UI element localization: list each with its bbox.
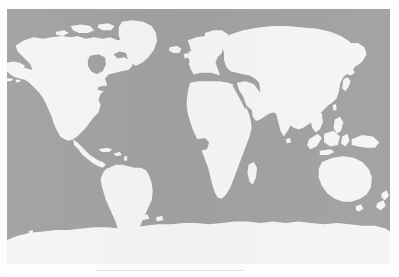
map-scan-wash: [7, 9, 390, 264]
page-canvas: [0, 0, 399, 277]
world-map-figure: [7, 9, 390, 264]
world-map-svg: [7, 9, 390, 264]
caption-rule: [96, 270, 244, 271]
